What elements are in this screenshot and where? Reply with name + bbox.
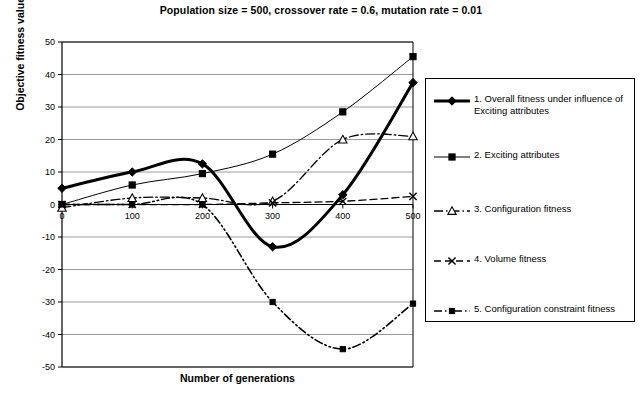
x-tick-label: 400 <box>335 211 350 221</box>
legend-item-label: 5. Configuration constraint fitness <box>472 303 615 315</box>
legend-symbol <box>432 304 472 318</box>
y-tick-label: 30 <box>45 102 55 112</box>
data-point-marker <box>340 109 346 115</box>
chart-figure: Population size = 500, crossover rate = … <box>0 0 642 393</box>
data-point-marker <box>410 301 415 306</box>
data-point-marker <box>130 202 135 207</box>
legend-item[interactable]: 4. Volume fitness <box>432 253 632 268</box>
data-point-marker <box>268 243 276 251</box>
legend-item-label: 2. Exciting attributes <box>472 149 560 161</box>
y-tick-label: 10 <box>45 167 55 177</box>
series-line <box>62 57 413 205</box>
y-tick-label: 50 <box>45 37 55 47</box>
legend-item[interactable]: 2. Exciting attributes <box>432 149 632 164</box>
legend-marker <box>449 154 455 160</box>
y-tick-label: 0 <box>50 200 55 210</box>
y-tick-label: -20 <box>42 265 55 275</box>
y-tick-label: 20 <box>45 135 55 145</box>
data-point-marker <box>129 182 135 188</box>
x-tick-label: 500 <box>405 211 420 221</box>
legend-item[interactable]: 3. Configuration fitness <box>432 203 632 218</box>
series-line <box>62 197 413 349</box>
data-point-marker <box>409 132 417 140</box>
series-line <box>62 196 413 204</box>
y-tick-label: -10 <box>42 232 55 242</box>
legend-item-label: 1. Overall fitness under influence of Ex… <box>472 93 632 117</box>
legend-symbol <box>432 150 472 164</box>
legend-item[interactable]: 1. Overall fitness under influence of Ex… <box>432 93 632 117</box>
data-point-marker <box>199 171 205 177</box>
x-tick-label: 0 <box>59 211 64 221</box>
legend-marker <box>449 308 454 313</box>
x-tick-label: 100 <box>125 211 140 221</box>
series-group <box>59 54 416 208</box>
legend-item-label: 4. Volume fitness <box>472 253 546 265</box>
series-group <box>58 78 417 251</box>
data-point-marker <box>200 202 205 207</box>
data-point-marker <box>340 347 345 352</box>
legend-symbol <box>432 94 472 108</box>
legend-marker <box>448 97 456 105</box>
data-point-marker <box>270 299 275 304</box>
data-point-marker <box>59 202 64 207</box>
legend-item-label: 3. Configuration fitness <box>472 203 571 215</box>
legend-item[interactable]: 5. Configuration constraint fitness <box>432 303 632 318</box>
y-tick-label: -50 <box>42 362 55 372</box>
series-group <box>59 197 415 351</box>
y-tick-label: -40 <box>42 330 55 340</box>
y-tick-label: -30 <box>42 297 55 307</box>
data-point-marker <box>270 151 276 157</box>
legend-symbol <box>432 204 472 218</box>
data-point-marker <box>410 54 416 60</box>
y-tick-label: 40 <box>45 70 55 80</box>
data-point-marker <box>128 168 136 176</box>
data-point-marker <box>58 184 66 192</box>
chart-legend: 1. Overall fitness under influence of Ex… <box>425 78 635 322</box>
x-tick-label: 300 <box>265 211 280 221</box>
x-tick-label: 200 <box>195 211 210 221</box>
legend-symbol <box>432 254 472 268</box>
